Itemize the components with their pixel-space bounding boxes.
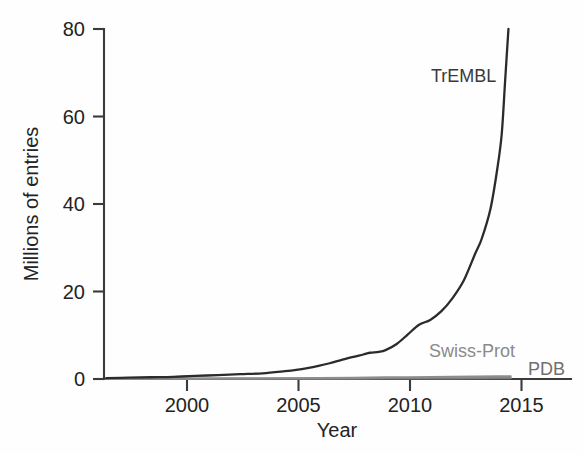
y-tick-label-40: 40 [63,193,85,215]
x-tick-label-2000: 2000 [165,394,210,416]
y-tick-label-20: 20 [63,281,85,303]
x-tick-label-2005: 2005 [276,394,321,416]
y-axis-title: Millions of entries [20,127,42,282]
y-tick-label-80: 80 [63,18,85,40]
x-axis-title: Year [317,419,358,441]
y-tick-label-60: 60 [63,106,85,128]
x-tick-label-2010: 2010 [388,394,433,416]
y-tick-label-0: 0 [74,368,85,390]
series-label-swissprot: Swiss-Prot [429,341,515,361]
chart-figure: 80 60 40 20 0 2000 2005 2010 2015 Year M… [0,0,583,454]
series-label-trembl: TrEMBL [431,66,496,86]
series-label-pdb: PDB [528,359,565,379]
line-chart-canvas: 80 60 40 20 0 2000 2005 2010 2015 Year M… [0,0,583,454]
x-tick-label-2015: 2015 [499,394,544,416]
